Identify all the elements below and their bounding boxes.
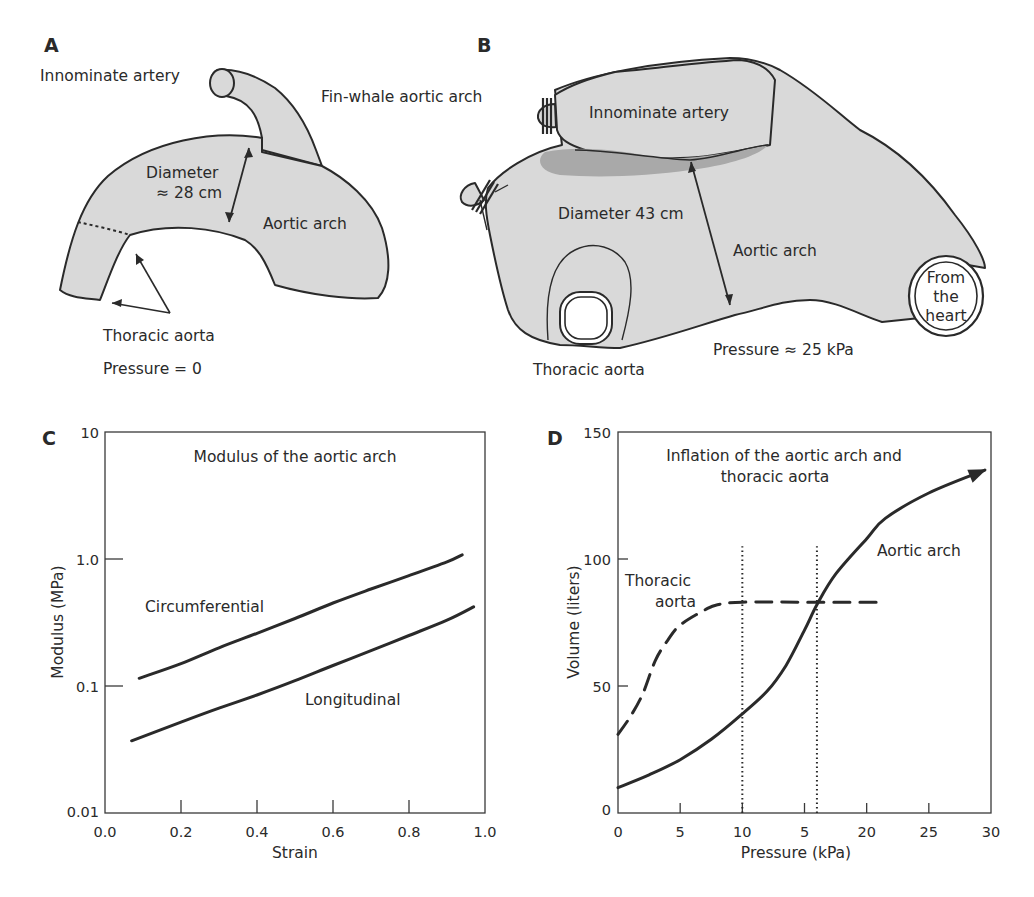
- label-aortic-arch-b: Aortic arch: [733, 242, 817, 260]
- x-axis-label-d: Pressure (kPa): [741, 844, 851, 862]
- x-tick-label: 0.6: [321, 824, 344, 840]
- arrowhead-icon: [967, 469, 986, 482]
- panel-label-c: C: [42, 427, 56, 449]
- label-from-heart-1: From: [927, 269, 965, 287]
- series-label-thoracic-2: aorta: [655, 593, 696, 611]
- panel-label-a: A: [44, 34, 59, 56]
- x-tick-label: 0.4: [245, 824, 268, 840]
- label-diameter-a-2: ≈ 28 cm: [156, 184, 222, 202]
- label-diameter-a-1: Diameter: [146, 164, 219, 182]
- plot-frame-c: [105, 432, 485, 813]
- y-tick-label: 50: [593, 679, 611, 695]
- y-tick-label: 0.1: [76, 679, 99, 695]
- series-line-longitudinal: [132, 607, 474, 741]
- chart-inflation: D 05105202530050100150 Inflation of the …: [547, 425, 1000, 862]
- innominate-opening-a: [210, 69, 234, 97]
- y-tick-label: 150: [583, 425, 611, 441]
- panel-b: B Innominate: [461, 34, 985, 379]
- label-from-heart-3: heart: [925, 307, 966, 325]
- label-thoracic-aorta-a: Thoracic aorta: [102, 327, 215, 345]
- label-pressure-b: Pressure ≈ 25 kPa: [713, 341, 854, 359]
- series-label-longitudinal: Longitudinal: [305, 691, 401, 709]
- x-tick-label: 20: [857, 824, 875, 840]
- arrowhead-icon: [112, 299, 122, 307]
- series-line-aortic-arch: [618, 470, 985, 787]
- y-tick-label: 1.0: [76, 552, 99, 568]
- label-from-heart-2: the: [933, 288, 958, 306]
- series-line-circumferential: [139, 555, 462, 679]
- curves-d: [618, 469, 987, 813]
- y-axis-label-d: Volume (liters): [565, 565, 583, 678]
- ticks-c: 0.00.20.40.60.81.00.010.11.010: [67, 425, 497, 840]
- chart-modulus: C 0.00.20.40.60.81.00.010.11.010 Modulus…: [42, 425, 497, 862]
- y-axis-label-c: Modulus (MPa): [49, 565, 67, 678]
- label-pressure-a: Pressure = 0: [103, 360, 202, 378]
- x-tick-label: 5: [676, 824, 685, 840]
- x-tick-label: 10: [733, 824, 751, 840]
- thoracic-pointer-1: [136, 254, 170, 313]
- series-line-thoracic-aorta: [618, 602, 885, 734]
- panel-a: A Innominate artery Fin-whale aortic arc…: [40, 34, 482, 378]
- curves-c: [132, 555, 474, 741]
- x-tick-label: 0.2: [169, 824, 192, 840]
- x-tick-label: 1.0: [473, 824, 496, 840]
- label-aortic-arch-a: Aortic arch: [263, 215, 347, 233]
- label-innominate-a: Innominate artery: [40, 67, 180, 85]
- x-tick-label: 5: [800, 824, 809, 840]
- y-tick-label: 10: [81, 425, 99, 441]
- thoracic-aorta-opening-inner: [565, 297, 607, 339]
- panel-label-b: B: [477, 34, 491, 56]
- label-innominate-b: Innominate artery: [589, 104, 729, 122]
- arrowhead-icon: [136, 254, 144, 265]
- x-axis-label-c: Strain: [272, 844, 318, 862]
- x-tick-label: 30: [982, 824, 1000, 840]
- chart-title-d-1: Inflation of the aortic arch and: [666, 447, 902, 465]
- x-tick-label: 25: [920, 824, 938, 840]
- chart-title-d-2: thoracic aorta: [721, 468, 829, 486]
- x-tick-label: 0.0: [93, 824, 116, 840]
- label-diameter-b: Diameter 43 cm: [558, 205, 684, 223]
- figure: A Innominate artery Fin-whale aortic arc…: [0, 0, 1034, 897]
- y-tick-label: 0.01: [67, 804, 99, 820]
- x-tick-label: 0.8: [397, 824, 420, 840]
- chart-title-c: Modulus of the aortic arch: [194, 448, 397, 466]
- x-tick-label: 0: [613, 824, 622, 840]
- panel-label-d: D: [547, 427, 563, 449]
- series-label-thoracic-1: Thoracic: [624, 572, 691, 590]
- y-tick-label: 0: [602, 802, 611, 818]
- series-label-circumferential: Circumferential: [145, 598, 264, 616]
- label-thoracic-aorta-b: Thoracic aorta: [532, 361, 645, 379]
- label-fin-whale-title: Fin-whale aortic arch: [321, 88, 482, 106]
- y-tick-label: 100: [583, 552, 611, 568]
- series-label-aortic-arch: Aortic arch: [877, 542, 961, 560]
